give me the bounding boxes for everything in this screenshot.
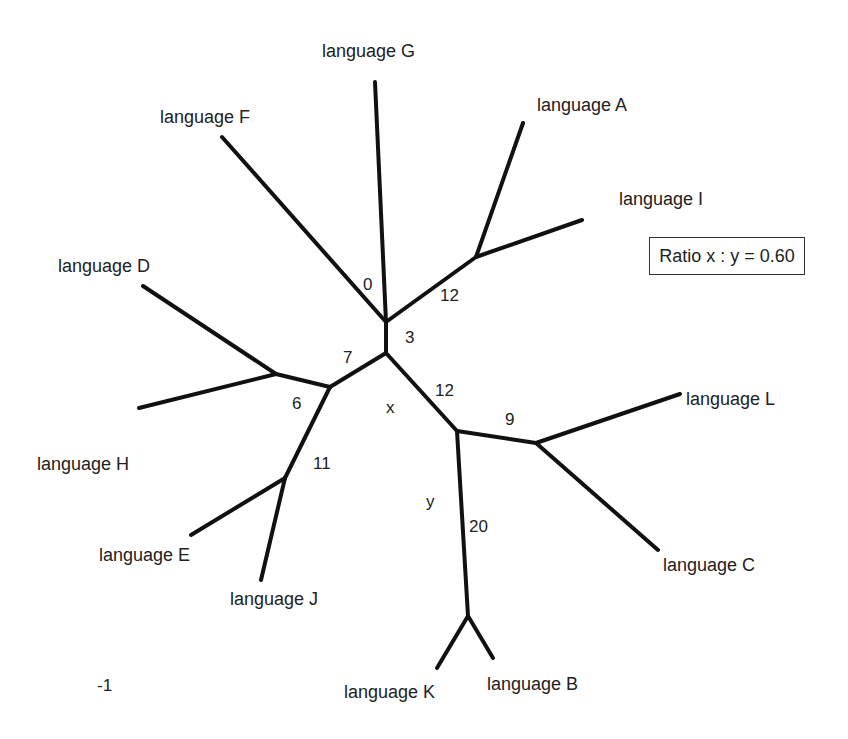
branch-D [143, 286, 276, 374]
edge-label-9: 9 [505, 411, 514, 428]
tree-diagram [0, 0, 848, 739]
edge-label-0: 0 [363, 276, 372, 293]
leaf-label-J: language J [230, 590, 318, 608]
branch-F [222, 137, 386, 322]
branch-left-7 [330, 353, 386, 387]
branch-H [139, 374, 276, 408]
leaf-label-B: language B [487, 675, 578, 693]
leaf-label-A: language A [537, 96, 627, 114]
leaf-label-F: language F [160, 108, 250, 126]
leaf-label-L: language L [686, 390, 775, 408]
leaf-label-K: language K [344, 683, 435, 701]
branch-y-20 [457, 431, 468, 616]
edge-label-12-lower: 12 [435, 382, 454, 399]
branch-AI-internal [386, 257, 476, 322]
page-marker: -1 [97, 676, 112, 696]
branch-DH-internal [276, 374, 330, 387]
leaf-label-C: language C [663, 556, 755, 574]
leaf-label-G: language G [322, 42, 415, 60]
branch-B [468, 616, 493, 658]
branch-J [261, 478, 285, 580]
edge-label-20: 20 [469, 518, 488, 535]
branch-E [191, 478, 285, 535]
edge-label-7: 7 [343, 349, 352, 366]
leaf-label-E: language E [99, 546, 190, 564]
branch-A [476, 123, 523, 257]
branch-I [476, 220, 582, 257]
edge-label-3: 3 [405, 329, 414, 346]
edge-label-12-upper: 12 [440, 287, 459, 304]
edge-label-x: x [386, 399, 395, 416]
ratio-box: Ratio x : y = 0.60 [649, 237, 805, 275]
leaf-label-H: language H [37, 455, 129, 473]
edge-label-y: y [426, 493, 435, 510]
branch-G [375, 82, 386, 322]
branch-C [536, 443, 658, 550]
edge-label-11: 11 [313, 455, 331, 472]
branch-LC-internal [457, 431, 536, 443]
edge-label-6: 6 [292, 395, 301, 412]
leaf-label-D: language D [58, 257, 150, 275]
leaf-label-I: language I [619, 190, 703, 208]
branch-K [437, 616, 468, 668]
ratio-text: Ratio x : y = 0.60 [659, 246, 795, 267]
branch-L [536, 394, 680, 443]
